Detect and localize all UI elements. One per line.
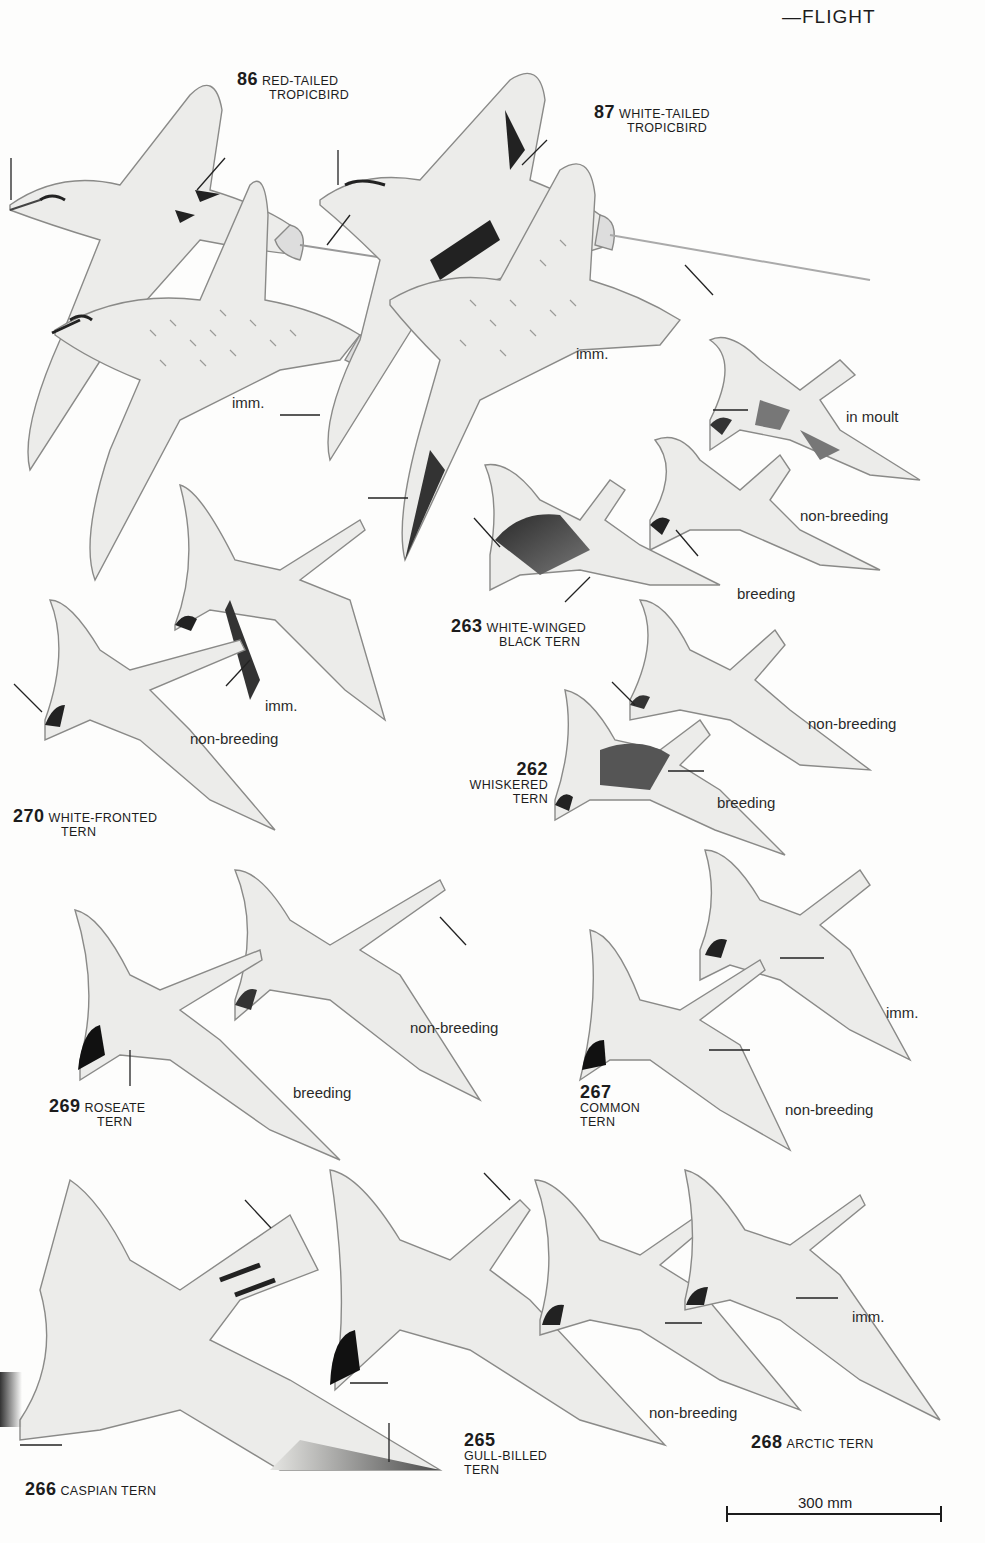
whiskered-tern-nonbreeding-illustration: [630, 600, 870, 770]
note-wwbt-breeding: breeding: [737, 585, 795, 602]
species-label-265: 265 GULL-BILLED TERN: [464, 1433, 547, 1477]
scale-bar: 300 mm: [726, 1494, 942, 1522]
note-roseate-breeding: breeding: [293, 1084, 351, 1101]
species-label-87: 87WHITE-TAILED TROPICBIRD: [594, 105, 710, 135]
note-wft-imm: imm.: [265, 697, 298, 714]
note-whiskered-breeding: breeding: [717, 794, 775, 811]
scale-bar-tick-right: [940, 1506, 942, 1522]
note-wft-non-breeding: non-breeding: [190, 730, 278, 747]
species-label-262: 262 WHISKERED TERN: [452, 762, 548, 806]
note-common-non-breeding: non-breeding: [785, 1101, 873, 1118]
note-tropicbird-86-imm: imm.: [232, 394, 265, 411]
note-wwbt-in-moult: in moult: [846, 408, 899, 425]
scan-edge-shadow: [0, 1372, 22, 1427]
white-fronted-tern-immature-illustration: [175, 485, 385, 720]
note-whiskered-non-breeding: non-breeding: [808, 715, 896, 732]
common-tern-immature-illustration: [700, 850, 910, 1060]
species-label-86: 86RED-TAILED TROPICBIRD: [237, 72, 349, 102]
species-label-269: 269ROSEATE TERN: [49, 1099, 145, 1129]
roseate-tern-nonbreeding-illustration: [235, 870, 480, 1100]
species-label-266: 266CASPIAN TERN: [25, 1482, 156, 1498]
note-arctic-imm: imm.: [852, 1308, 885, 1325]
note-common-imm: imm.: [886, 1004, 919, 1021]
note-tropicbird-87-imm: imm.: [576, 345, 609, 362]
note-arctic-non-breeding: non-breeding: [649, 1404, 737, 1421]
species-label-270: 270WHITE-FRONTED TERN: [13, 809, 157, 839]
scale-bar-label: 300 mm: [798, 1494, 852, 1511]
field-guide-plate: —FLIGHT: [0, 0, 985, 1543]
arctic-tern-immature-illustration: [685, 1170, 940, 1420]
note-roseate-non-breeding: non-breeding: [410, 1019, 498, 1036]
species-label-267: 267 COMMON TERN: [580, 1085, 640, 1129]
species-label-263: 263WHITE-WINGED BLACK TERN: [451, 619, 586, 649]
species-label-268: 268ARCTIC TERN: [751, 1435, 874, 1451]
scale-bar-line: [726, 1513, 942, 1515]
note-wwbt-non-breeding: non-breeding: [800, 507, 888, 524]
scale-bar-tick-left: [726, 1506, 728, 1522]
